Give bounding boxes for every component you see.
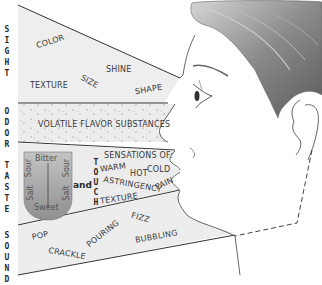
side-label-sight: S I G H T <box>2 24 12 79</box>
term-cold: COLD <box>147 166 170 174</box>
tongue-sour-left: Sour <box>25 159 33 177</box>
term-hot: HOT <box>130 170 148 178</box>
side-label-taste: T A S T E <box>2 160 12 215</box>
tongue-salt-right: Salt <box>63 185 71 200</box>
term-texture-sight: TEXTURE <box>30 82 68 90</box>
tongue-sweet: Sweet <box>34 204 59 212</box>
and-connector: and <box>73 180 92 190</box>
tongue-sour-right: Sour <box>63 159 71 177</box>
tongue-salt-left: Salt <box>27 185 35 200</box>
term-volatile-flavor-substances: VOLATILE FLAVOR SUBSTANCES <box>38 121 170 129</box>
side-label-odor: O D O R <box>2 106 12 150</box>
touch-header: SENSATIONS OF: <box>104 152 173 160</box>
hair <box>191 1 322 118</box>
side-label-sound: S O U N D <box>2 230 12 285</box>
tongue-bitter: Bitter <box>35 155 57 163</box>
term-shine: SHINE <box>106 66 132 74</box>
